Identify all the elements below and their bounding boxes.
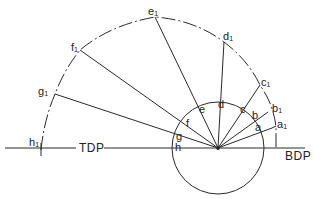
inner-label-b: b	[252, 110, 258, 121]
valve-timing-diagram: TDP BDP a b c d e f g h a1 b1 c1 d1 e1 f…	[0, 0, 314, 199]
outer-label-e1: e1	[148, 6, 158, 17]
outer-label-a1: a1	[277, 119, 287, 130]
outer-label-f1: f1	[71, 42, 78, 53]
tdp-label: TDP	[79, 142, 105, 154]
outer-label-d1: d1	[223, 31, 233, 42]
diagram-drawing	[0, 0, 314, 199]
inner-label-a: a	[255, 122, 261, 133]
ray-d	[218, 42, 224, 148]
ray-g	[55, 94, 218, 148]
inner-label-d: d	[218, 99, 224, 110]
inner-label-f: f	[186, 118, 189, 129]
outer-label-g1: g1	[38, 86, 48, 97]
inner-label-h: h	[175, 142, 181, 153]
outer-label-b1: b1	[272, 103, 282, 114]
outer-label-c1: c1	[261, 77, 270, 88]
ray-f	[80, 50, 218, 148]
bdp-label: BDP	[285, 150, 311, 162]
inner-label-c: c	[240, 104, 246, 115]
outer-label-h1: h1	[29, 137, 39, 148]
outer-curve	[41, 17, 276, 150]
inner-label-e: e	[199, 104, 205, 115]
